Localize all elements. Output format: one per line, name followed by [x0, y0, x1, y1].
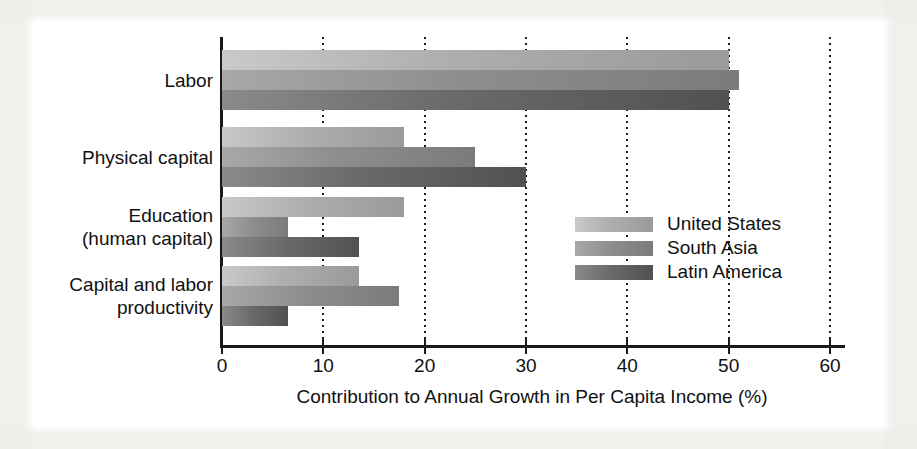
legend-label-south-asia: South Asia	[667, 237, 758, 259]
category-label-line: Physical capital	[82, 146, 213, 169]
x-axis-title: Contribution to Annual Growth in Per Cap…	[222, 386, 842, 408]
category-label-capital-and-labor-productivity: Capital and laborproductivity	[69, 273, 213, 319]
bar-labor-latin-america	[222, 90, 729, 110]
legend-label-latin-america: Latin America	[667, 261, 782, 283]
bar-chart: 0102030405060 LaborPhysical capitalEduca…	[0, 0, 917, 449]
legend-swatch-icon-latin-america	[575, 265, 653, 280]
chart-legend: United States South Asia Latin America	[575, 213, 782, 285]
category-label-line: Education	[82, 204, 213, 227]
x-tick-50	[728, 338, 730, 354]
x-tick-label-10: 10	[313, 355, 334, 377]
bar-physical-capital-latin-america	[222, 167, 526, 187]
legend-swatch-icon-united-states	[575, 217, 653, 232]
figure-page: 0102030405060 LaborPhysical capitalEduca…	[0, 0, 917, 449]
x-tick-0	[221, 338, 223, 354]
bar-capital-and-labor-productivity-united-states	[222, 266, 359, 286]
x-tick-label-30: 30	[515, 355, 536, 377]
legend-item-united-states: United States	[575, 213, 782, 235]
x-tick-label-60: 60	[819, 355, 840, 377]
x-tick-10	[322, 338, 324, 354]
legend-item-south-asia: South Asia	[575, 237, 782, 259]
category-label-line: Labor	[164, 69, 213, 92]
bar-education-human-capital-united-states	[222, 197, 404, 217]
category-label-labor: Labor	[164, 69, 213, 92]
category-label-line: Capital and labor	[69, 273, 213, 296]
x-tick-30	[525, 338, 527, 354]
legend-label-united-states: United States	[667, 213, 781, 235]
x-tick-label-20: 20	[414, 355, 435, 377]
bar-capital-and-labor-productivity-latin-america	[222, 306, 288, 326]
x-axis-line	[220, 345, 845, 348]
legend-item-latin-america: Latin America	[575, 261, 782, 283]
category-label-education-human-capital: Education(human capital)	[82, 204, 213, 250]
x-tick-label-50: 50	[718, 355, 739, 377]
bar-labor-south-asia	[222, 70, 739, 90]
x-tick-20	[424, 338, 426, 354]
bar-physical-capital-united-states	[222, 127, 404, 147]
x-tick-label-0: 0	[217, 355, 228, 377]
legend-swatch-icon-south-asia	[575, 241, 653, 256]
x-tick-label-40: 40	[617, 355, 638, 377]
category-label-line: productivity	[69, 296, 213, 319]
gridline-60	[829, 37, 831, 345]
bar-labor-united-states	[222, 50, 729, 70]
x-tick-60	[829, 338, 831, 354]
bar-education-human-capital-latin-america	[222, 237, 359, 257]
bar-physical-capital-south-asia	[222, 147, 475, 167]
category-label-physical-capital: Physical capital	[82, 146, 213, 169]
x-tick-40	[626, 338, 628, 354]
bar-education-human-capital-south-asia	[222, 217, 288, 237]
category-label-line: (human capital)	[82, 227, 213, 250]
bar-capital-and-labor-productivity-south-asia	[222, 286, 399, 306]
